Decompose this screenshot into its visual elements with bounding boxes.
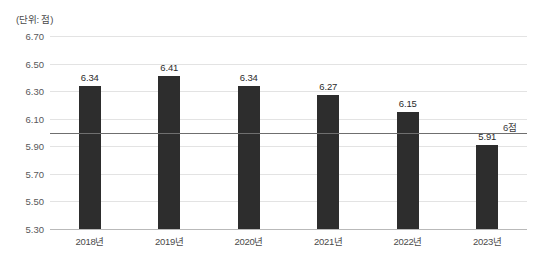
x-axis-tick-label: 2022년 [393, 234, 422, 248]
x-axis-tick-label: 2020년 [234, 234, 263, 248]
bar-chart: (단위: 점) 6.706.506.306.105.905.705.505.30… [0, 0, 550, 256]
bar-value-label: 6.15 [399, 98, 417, 109]
bar[interactable] [476, 145, 498, 229]
x-axis-baseline [50, 229, 527, 230]
x-axis-tick-label: 2021년 [314, 234, 343, 248]
y-axis-tick-label: 6.30 [4, 86, 44, 97]
bar-value-label: 6.27 [319, 81, 337, 92]
x-axis-tick-label: 2018년 [75, 234, 104, 248]
plot-area: 6.346.416.346.276.155.91 [50, 36, 527, 229]
reference-line [50, 133, 527, 134]
bar[interactable] [397, 112, 419, 229]
bar-value-label: 6.41 [160, 62, 178, 73]
x-axis-tick-label: 2019년 [155, 234, 184, 248]
bar[interactable] [317, 95, 339, 229]
y-axis-tick-label: 5.30 [4, 224, 44, 235]
y-axis-tick-label: 5.90 [4, 141, 44, 152]
x-axis-tick-label: 2023년 [473, 234, 502, 248]
bar[interactable] [238, 86, 260, 229]
bar-value-label: 6.34 [81, 72, 99, 83]
bar[interactable] [79, 86, 101, 229]
y-axis-tick-label: 6.70 [4, 31, 44, 42]
y-axis-tick-label: 6.10 [4, 113, 44, 124]
reference-line-label: 6점 [503, 120, 517, 134]
y-axis-tick-label: 6.50 [4, 58, 44, 69]
bar-value-label: 6.34 [240, 72, 258, 83]
y-axis-tick-label: 5.50 [4, 196, 44, 207]
y-axis-tick-label: 5.70 [4, 168, 44, 179]
y-axis: 6.706.506.306.105.905.705.505.30 [0, 0, 44, 256]
bar[interactable] [158, 76, 180, 229]
